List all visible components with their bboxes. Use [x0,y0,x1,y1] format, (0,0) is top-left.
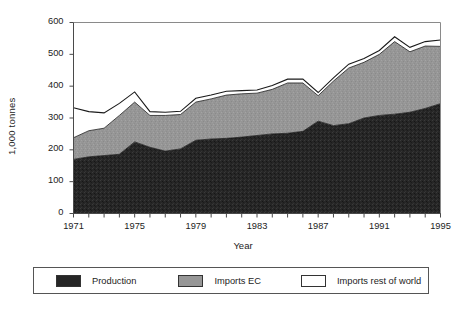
y-tick-label: 100 [34,175,64,185]
legend-label: Imports EC [214,276,261,286]
y-tick-label: 600 [34,16,64,26]
x-tick-label: 1971 [54,221,94,231]
white-swatch-icon [301,275,326,287]
x-tick-label: 1979 [176,221,216,231]
x-tick-label: 1991 [359,221,399,231]
x-tick-label: 1987 [298,221,338,231]
y-tick-label: 300 [34,112,64,122]
y-tick-label: 200 [34,143,64,153]
x-tick-label: 1975 [115,221,155,231]
legend-item-imports-rest-of-world: Imports rest of world [301,275,421,287]
x-axis-title-text: Year [233,240,252,251]
legend-label: Production [92,276,136,286]
legend-item-imports-ec: Imports EC [178,275,261,287]
legend-label: Imports rest of world [337,276,421,286]
y-tick-label: 500 [34,48,64,58]
x-axis-title: Year [0,240,462,251]
legend-item-production: Production [56,275,136,287]
gray-swatch-icon [178,275,203,287]
x-tick-label: 1983 [237,221,277,231]
chart-figure: 1,000 tonnes ProductionImports ECImports… [0,0,462,314]
y-tick-label: 0 [34,207,64,217]
x-tick-label: 1995 [421,221,461,231]
y-tick-label: 400 [34,80,64,90]
chart-legend: Production Imports EC Imports rest of wo… [33,267,429,294]
black-swatch-icon [56,275,81,287]
